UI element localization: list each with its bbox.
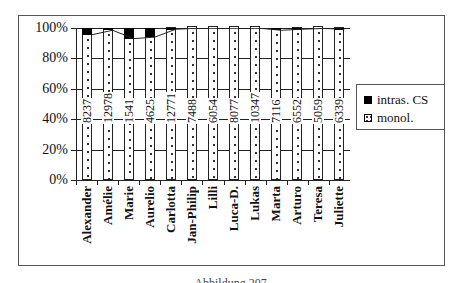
x-tick	[76, 180, 77, 185]
x-tick-label: Lukas	[248, 186, 261, 221]
x-tick-label: Marie	[122, 186, 135, 220]
x-tick	[224, 180, 225, 185]
x-tick-label: Lilli	[206, 186, 219, 209]
x-tick	[308, 180, 309, 185]
x-tick-label: Juliette	[332, 186, 345, 227]
legend-label-mono: monol.	[377, 111, 413, 125]
x-tick	[118, 180, 119, 185]
x-tick	[97, 180, 98, 185]
y-tick-label: 40%	[22, 112, 68, 126]
x-tick	[181, 180, 182, 185]
x-tick-label: Luca-D.	[227, 186, 240, 231]
legend: intras. CS monol.	[356, 84, 445, 130]
y-tick-label: 80%	[22, 51, 68, 65]
x-axis	[76, 180, 350, 181]
x-tick-label: Teresa	[311, 186, 324, 222]
y-tick-label: 60%	[22, 82, 68, 96]
legend-item-mono: monol.	[364, 111, 413, 125]
legend-item-cs: intras. CS	[364, 93, 428, 107]
x-tick	[287, 180, 288, 185]
y-tick-label: 100%	[22, 21, 68, 35]
x-tick-label: Carlotta	[164, 186, 177, 233]
x-tick	[266, 180, 267, 185]
cs-trend-line	[76, 28, 350, 180]
x-tick	[139, 180, 140, 185]
x-tick-label: Arturo	[290, 186, 303, 225]
y-tick-label: 0%	[22, 173, 68, 187]
x-tick-label: Aurelio	[143, 186, 156, 228]
x-tick-label: Alexander	[80, 186, 93, 244]
x-tick-label: Amélie	[101, 186, 114, 225]
x-tick	[202, 180, 203, 185]
x-tick-label: Marta	[269, 186, 282, 221]
x-tick	[329, 180, 330, 185]
figure-caption: Abbildung 207	[0, 276, 461, 283]
legend-label-cs: intras. CS	[377, 93, 428, 107]
x-tick-label: Jan-Philip	[185, 186, 198, 244]
y-tick-label: 20%	[22, 143, 68, 157]
legend-swatch-cs-icon	[364, 96, 372, 104]
legend-swatch-mono-icon	[364, 114, 372, 122]
x-tick	[245, 180, 246, 185]
x-tick	[160, 180, 161, 185]
